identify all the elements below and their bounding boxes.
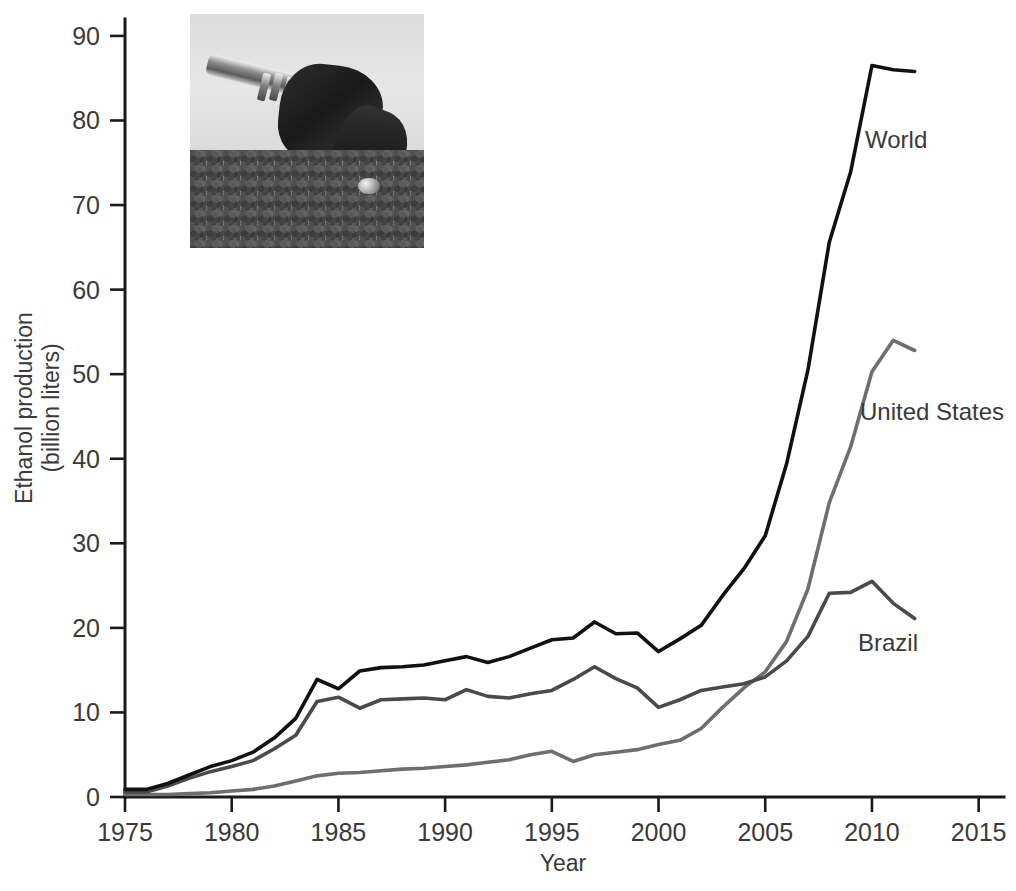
x-tick-label: 1995 bbox=[524, 818, 580, 846]
y-tick-label: 10 bbox=[72, 698, 100, 726]
chart-figure: 0102030405060708090 19751980198519901995… bbox=[0, 0, 1016, 891]
x-tick-label: 2015 bbox=[951, 818, 1007, 846]
y-axis-ticks: 0102030405060708090 bbox=[72, 22, 125, 811]
x-tick-label: 1980 bbox=[204, 818, 260, 846]
y-tick-label: 20 bbox=[72, 614, 100, 642]
y-tick-label: 0 bbox=[86, 783, 100, 811]
y-axis-title-line2: (billion liters) bbox=[38, 343, 64, 472]
x-tick-label: 1975 bbox=[97, 818, 153, 846]
x-axis-ticks: 197519801985199019952000200520102015 bbox=[97, 797, 1006, 846]
y-tick-label: 60 bbox=[72, 276, 100, 304]
y-tick-label: 90 bbox=[72, 22, 100, 50]
line-chart: 0102030405060708090 19751980198519901995… bbox=[0, 0, 1016, 891]
y-tick-label: 80 bbox=[72, 106, 100, 134]
x-tick-label: 2005 bbox=[737, 818, 793, 846]
y-tick-label: 30 bbox=[72, 529, 100, 557]
y-tick-label: 70 bbox=[72, 191, 100, 219]
x-tick-label: 1990 bbox=[417, 818, 473, 846]
x-tick-label: 2010 bbox=[844, 818, 900, 846]
x-axis-title: Year bbox=[540, 850, 587, 876]
y-tick-label: 40 bbox=[72, 445, 100, 473]
y-axis-title-line1: Ethanol production bbox=[11, 312, 37, 504]
series-line-united-states bbox=[125, 340, 915, 794]
x-tick-label: 1985 bbox=[311, 818, 367, 846]
series-line-brazil bbox=[125, 581, 915, 792]
series-label-world: World bbox=[865, 126, 927, 153]
series-line-world bbox=[125, 66, 915, 790]
series-labels-group: WorldUnited StatesBrazil bbox=[858, 126, 1004, 656]
series-label-united-states: United States bbox=[860, 398, 1004, 425]
series-label-brazil: Brazil bbox=[858, 629, 918, 656]
x-tick-label: 2000 bbox=[631, 818, 687, 846]
series-paths-group bbox=[125, 66, 915, 795]
y-tick-label: 50 bbox=[72, 360, 100, 388]
